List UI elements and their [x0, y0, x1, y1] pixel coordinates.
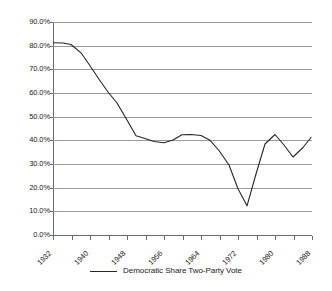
y-tick-label: 10.0% [2, 207, 50, 215]
x-tick-mark [127, 236, 128, 240]
x-tick-label: 1956 [146, 249, 164, 267]
y-axis: 90.0% 80.0% 70.0% 60.0% 50.0% 40.0% 30.0… [0, 0, 50, 291]
y-tick-label: 90.0% [2, 18, 50, 26]
x-tick-label: 1972 [220, 249, 238, 267]
x-tick-mark [109, 236, 110, 240]
x-tick-mark [275, 236, 276, 240]
x-tick-label: 1948 [109, 249, 127, 267]
x-tick-label: 1940 [72, 249, 90, 267]
x-tick-label: 1964 [183, 249, 201, 267]
x-tick-mark [257, 236, 258, 240]
series-democratic-share [53, 22, 312, 236]
x-tick-mark [312, 236, 313, 240]
x-tick-mark [220, 236, 221, 240]
legend-line-swatch [90, 271, 117, 272]
x-tick-mark [238, 236, 239, 240]
x-tick-mark [146, 236, 147, 240]
x-tick-mark [72, 236, 73, 240]
x-tick-mark [90, 236, 91, 240]
y-tick-label: 60.0% [2, 89, 50, 97]
x-tick-mark [164, 236, 165, 240]
x-tick-mark [201, 236, 202, 240]
y-tick-label: 0.0% [2, 231, 50, 239]
y-tick-label: 40.0% [2, 136, 50, 144]
x-tick-mark [183, 236, 184, 240]
x-tick-label: 1988 [294, 249, 312, 267]
chart-legend: Democratic Share Two-Party Vote [0, 266, 332, 276]
chart-container: 90.0% 80.0% 70.0% 60.0% 50.0% 40.0% 30.0… [0, 0, 332, 291]
legend-label: Democratic Share Two-Party Vote [123, 266, 242, 276]
y-tick-label: 80.0% [2, 42, 50, 50]
y-tick-label: 30.0% [2, 160, 50, 168]
x-tick-label: 1980 [257, 249, 275, 267]
y-tick-label: 50.0% [2, 113, 50, 121]
series-line [53, 43, 311, 206]
x-tick-mark [53, 236, 54, 240]
x-tick-mark [294, 236, 295, 240]
y-tick-label: 70.0% [2, 65, 50, 73]
y-tick-label: 20.0% [2, 184, 50, 192]
